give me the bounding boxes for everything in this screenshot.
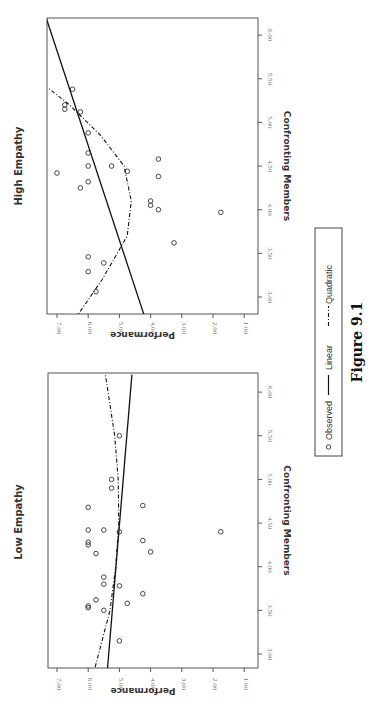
figure-caption: Figure 9.1 <box>349 302 365 383</box>
observed-point <box>86 528 91 533</box>
observed-point <box>109 164 114 169</box>
x-tick-label: 5.50 <box>266 430 274 443</box>
observed-point <box>78 110 83 115</box>
linear-fit-line <box>46 18 145 319</box>
observed-point <box>86 131 91 136</box>
observed-point <box>102 261 107 266</box>
observed-point <box>86 179 91 184</box>
high-empathy-panel: 1.002.003.004.005.006.007.003.003.504.00… <box>13 18 292 340</box>
quadratic-fit-line <box>48 88 132 319</box>
x-axis-title: Confronting Members <box>282 465 292 575</box>
observed-point <box>86 269 91 274</box>
x-tick-label: 4.50 <box>266 517 274 530</box>
plot-frame <box>47 18 258 314</box>
observed-point <box>156 174 161 179</box>
observed-point <box>102 575 107 580</box>
x-tick-label: 5.00 <box>266 473 274 486</box>
legend-label-quadratic: Quadratic <box>324 264 334 304</box>
observed-point <box>94 598 99 603</box>
observed-point <box>63 103 68 108</box>
observed-point <box>156 157 161 162</box>
x-axis-title: Confronting Members <box>282 111 292 221</box>
x-tick-label: 3.50 <box>266 247 274 260</box>
observed-point <box>109 486 114 491</box>
x-tick-label: 5.00 <box>266 116 274 129</box>
observed-point <box>141 591 146 596</box>
legend: ObservedLinearQuadratic <box>315 228 342 456</box>
observed-point <box>148 199 153 204</box>
x-tick-label: 3.50 <box>266 604 274 617</box>
x-tick-label: 4.00 <box>266 561 274 574</box>
observed-point <box>102 528 107 533</box>
observed-point <box>141 503 146 508</box>
y-tick-label: 1.00 <box>242 322 250 335</box>
y-tick-label: 3.00 <box>180 678 188 691</box>
y-tick-label: 2.00 <box>211 678 219 691</box>
observed-point <box>148 550 153 555</box>
observed-point <box>94 551 99 556</box>
legend-label-observed: Observed <box>324 401 334 440</box>
y-tick-label: 7.00 <box>55 322 63 335</box>
figure-9-1: 1.002.003.004.005.006.007.003.003.504.00… <box>0 0 376 712</box>
observed-point <box>219 529 224 534</box>
x-tick-label: 3.00 <box>266 648 274 661</box>
observed-point <box>141 538 146 543</box>
x-tick-label: 4.00 <box>266 204 274 217</box>
y-tick-label: 1.00 <box>242 678 250 691</box>
y-axis-title: Performance <box>111 686 176 696</box>
observed-point <box>172 241 177 246</box>
x-tick-label: 4.50 <box>266 160 274 173</box>
observed-point <box>63 107 68 112</box>
legend-label-linear: Linear <box>324 345 334 370</box>
observed-point <box>109 477 114 482</box>
observed-point <box>117 433 122 438</box>
y-axis-title: Performance <box>110 330 175 340</box>
observed-point <box>156 207 161 212</box>
observed-point <box>86 505 91 510</box>
low-empathy-panel: 1.002.003.004.005.006.007.003.003.504.00… <box>13 373 292 696</box>
plot-frame <box>48 373 258 668</box>
panel-title: Low Empathy <box>13 484 24 560</box>
x-tick-label: 5.50 <box>266 73 274 86</box>
observed-point <box>102 608 107 613</box>
observed-point <box>55 171 60 176</box>
x-tick-label: 3.00 <box>266 291 274 304</box>
observed-point <box>86 255 91 260</box>
x-tick-label: 6.00 <box>266 386 274 399</box>
observed-point <box>219 210 224 215</box>
observed-point <box>125 601 130 606</box>
observed-point <box>117 639 122 644</box>
observed-point <box>78 186 83 191</box>
quadratic-fit-line <box>93 375 119 676</box>
observed-point <box>86 164 91 169</box>
x-tick-label: 6.00 <box>266 29 274 42</box>
figure-caption-text: Figure 9.1 <box>349 302 365 383</box>
panel-title: High Empathy <box>13 126 24 206</box>
y-tick-label: 6.00 <box>86 322 94 335</box>
observed-point <box>117 584 122 589</box>
observed-point <box>102 582 107 587</box>
y-tick-label: 6.00 <box>86 678 94 691</box>
linear-fit-line <box>107 375 132 676</box>
y-tick-label: 3.00 <box>180 322 188 335</box>
observed-point <box>148 203 153 208</box>
y-tick-label: 2.00 <box>211 322 219 335</box>
y-tick-label: 7.00 <box>55 678 63 691</box>
observed-point <box>70 87 75 92</box>
